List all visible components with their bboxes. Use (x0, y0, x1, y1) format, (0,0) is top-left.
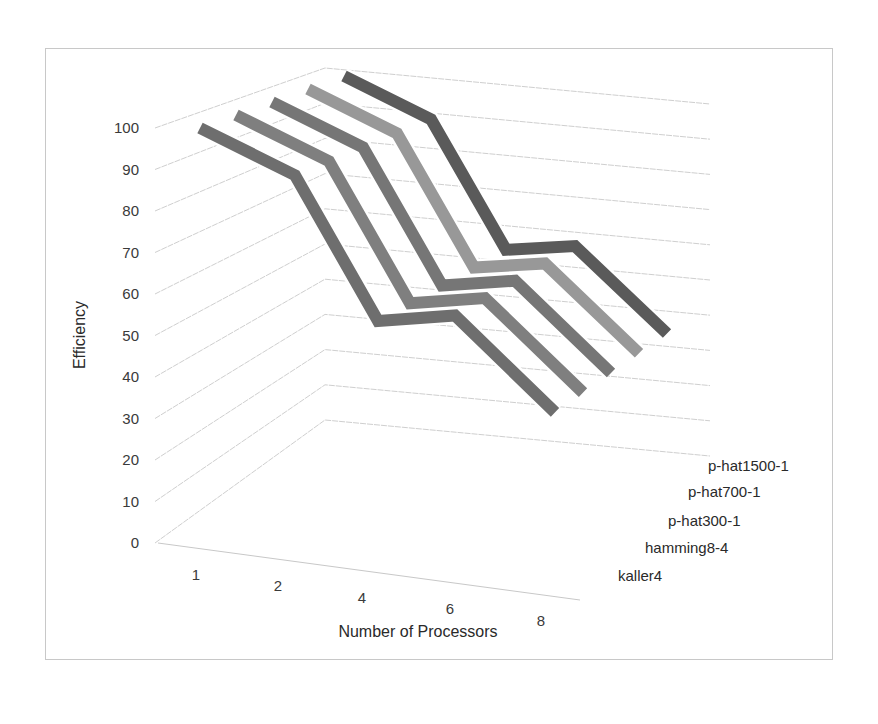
chart-floor (158, 543, 580, 600)
legend-label: p-hat300-1 (668, 512, 741, 529)
x-tick-label: 1 (192, 566, 200, 583)
y-tick-label: 70 (122, 244, 139, 261)
y-tick-label: 20 (122, 451, 139, 468)
y-tick-label: 90 (122, 161, 139, 178)
series-lines (200, 76, 667, 412)
legend-label: p-hat700-1 (688, 483, 761, 500)
series-depth-labels: kaller4hamming8-4p-hat300-1p-hat700-1p-h… (618, 457, 789, 584)
x-tick-label: 4 (358, 589, 366, 606)
y-axis-ticks: 0102030405060708090100 (114, 119, 139, 551)
y-axis-title: Efficiency (71, 301, 88, 369)
x-axis-title: Number of Processors (338, 623, 497, 640)
chart-3d-line: 0102030405060708090100 12468 kaller4hamm… (0, 0, 878, 724)
x-tick-label: 8 (537, 612, 545, 629)
y-tick-label: 60 (122, 285, 139, 302)
gridline (155, 350, 710, 460)
legend-label: p-hat1500-1 (708, 457, 789, 474)
gridline (155, 420, 710, 543)
x-tick-label: 6 (446, 600, 454, 617)
y-tick-label: 50 (122, 327, 139, 344)
y-tick-label: 30 (122, 410, 139, 427)
x-axis-line (158, 543, 580, 600)
y-tick-label: 100 (114, 119, 139, 136)
y-tick-label: 40 (122, 368, 139, 385)
y-tick-label: 0 (131, 534, 139, 551)
legend-label: hamming8-4 (645, 539, 728, 556)
x-axis-ticks: 12468 (192, 566, 545, 629)
x-tick-label: 2 (274, 577, 282, 594)
y-tick-label: 10 (122, 493, 139, 510)
gridline (155, 385, 710, 502)
y-tick-label: 80 (122, 202, 139, 219)
legend-label: kaller4 (618, 567, 662, 584)
